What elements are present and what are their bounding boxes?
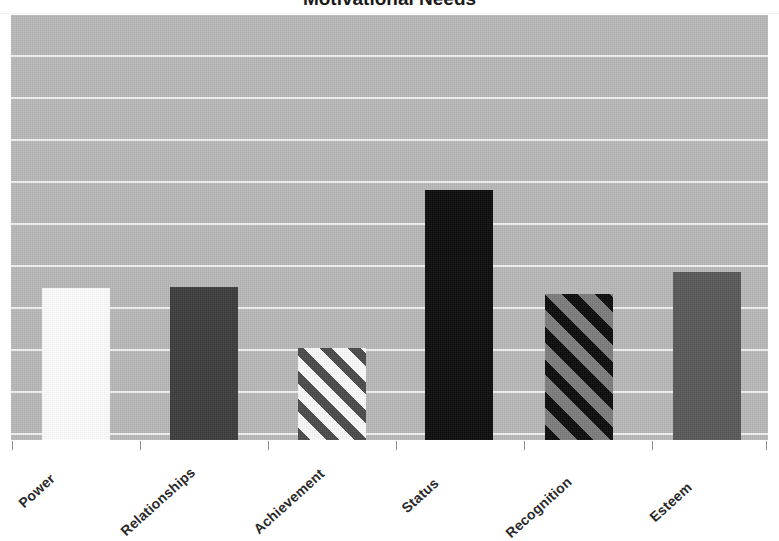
gridline bbox=[11, 433, 768, 435]
x-axis-tick bbox=[396, 441, 397, 450]
x-axis-tick bbox=[12, 441, 13, 450]
x-axis-label-recognition: Recognition bbox=[502, 474, 574, 541]
x-axis-tick bbox=[652, 441, 653, 450]
x-axis-tick bbox=[140, 441, 141, 450]
gridline bbox=[11, 223, 768, 225]
x-axis-label-relationships: Relationships bbox=[117, 464, 198, 539]
bar-status[interactable] bbox=[425, 190, 493, 440]
chart-title-text: Motivational Needs bbox=[0, 0, 779, 8]
x-axis-tick bbox=[524, 441, 525, 450]
bar-relationships[interactable] bbox=[170, 287, 238, 440]
gridline bbox=[11, 55, 768, 57]
chart-title-clipped: Motivational Needs bbox=[0, 0, 779, 8]
gridline bbox=[11, 349, 768, 351]
bar-power[interactable] bbox=[42, 288, 110, 440]
x-axis-label-achievement: Achievement bbox=[250, 465, 327, 537]
plot-texture-overlay bbox=[11, 15, 768, 440]
scan-seam bbox=[0, 13, 779, 14]
x-axis-label-esteem: Esteem bbox=[646, 479, 695, 525]
bar-esteem[interactable] bbox=[673, 272, 741, 440]
bar-achievement[interactable] bbox=[298, 348, 366, 440]
gridline bbox=[11, 97, 768, 99]
x-axis-tick bbox=[766, 441, 767, 450]
plot-area bbox=[11, 15, 768, 440]
gridline bbox=[11, 265, 768, 267]
gridline bbox=[11, 391, 768, 393]
x-axis-label-power: Power bbox=[15, 470, 58, 511]
gridline bbox=[11, 307, 768, 309]
gridline bbox=[11, 181, 768, 183]
x-axis-tick bbox=[268, 441, 269, 450]
x-axis-label-status: Status bbox=[398, 475, 441, 516]
gridline bbox=[11, 139, 768, 141]
bar-recognition[interactable] bbox=[545, 294, 613, 440]
